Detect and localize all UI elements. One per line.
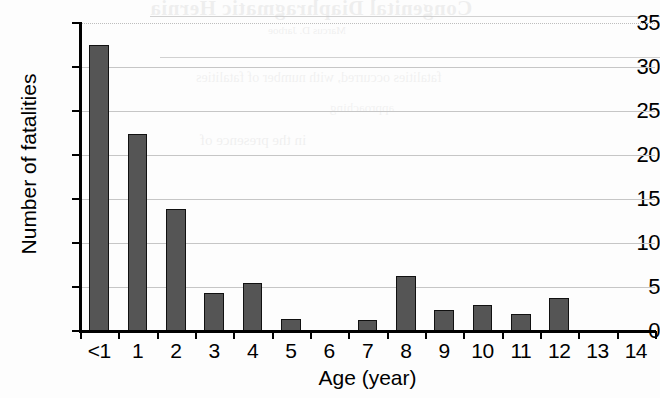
bar-11 [511, 314, 531, 331]
bar-9 [434, 310, 454, 331]
bar-chart-figure: Congenital Diaphragmatic Hernia Marcus D… [0, 0, 660, 398]
x-tick-label-2: 2 [157, 340, 195, 362]
bar-12 [549, 298, 569, 331]
x-tick [540, 331, 542, 339]
x-tick-label-1: 1 [118, 340, 156, 362]
bar-<1 [89, 45, 109, 331]
x-tick [80, 331, 82, 339]
x-tick-label-10: 10 [463, 340, 501, 362]
x-tick-label-9: 9 [425, 340, 463, 362]
x-tick-label-4: 4 [233, 340, 271, 362]
y-axis-line [79, 22, 82, 333]
bar-2 [166, 209, 186, 331]
x-tick-label-14: 14 [617, 340, 655, 362]
ghost-rule [150, 16, 660, 17]
gridline [80, 111, 655, 112]
bar-3 [204, 293, 224, 331]
bar-4 [243, 283, 263, 331]
x-tick [425, 331, 427, 339]
x-tick-label-12: 12 [540, 340, 578, 362]
x-tick [310, 331, 312, 339]
bar-1 [128, 134, 148, 331]
x-tick [233, 331, 235, 339]
x-tick-label-<1: <1 [80, 340, 118, 362]
x-tick [617, 331, 619, 339]
x-tick-label-6: 6 [310, 340, 348, 362]
x-tick [195, 331, 197, 339]
bar-10 [473, 305, 493, 331]
x-tick [463, 331, 465, 339]
ghost-text-line-1: Congenital Diaphragmatic Hernia [150, 0, 472, 21]
bar-8 [396, 276, 416, 331]
y-axis-title: Number of fatalities [18, 39, 40, 289]
x-tick-label-11: 11 [502, 340, 540, 362]
x-tick-label-7: 7 [348, 340, 386, 362]
x-tick [387, 331, 389, 339]
x-tick [502, 331, 504, 339]
x-tick-label-3: 3 [195, 340, 233, 362]
x-tick-label-8: 8 [387, 340, 425, 362]
x-tick-label-13: 13 [578, 340, 616, 362]
x-tick-label-5: 5 [272, 340, 310, 362]
x-tick [655, 331, 657, 339]
x-axis-line [79, 330, 656, 333]
x-tick [348, 331, 350, 339]
gridline [80, 23, 655, 24]
gridline [80, 199, 655, 200]
gridline [80, 155, 655, 156]
x-axis-title: Age (year) [80, 367, 655, 389]
x-tick [157, 331, 159, 339]
x-tick [578, 331, 580, 339]
x-tick [118, 331, 120, 339]
gridline [80, 67, 655, 68]
x-tick [272, 331, 274, 339]
plot-area [80, 23, 655, 331]
